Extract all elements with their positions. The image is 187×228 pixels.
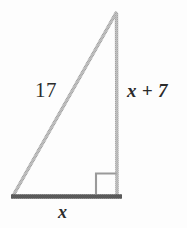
triangle-vertical-leg-core	[117, 13, 118, 196]
hypotenuse-length-label: 17	[35, 80, 57, 101]
vertical-leg-length-label: x + 7	[127, 81, 168, 100]
base-length-label: x	[58, 203, 67, 221]
right-angle-marker	[96, 174, 117, 195]
geometry-figure: 17 x + 7 x	[0, 0, 187, 228]
triangle-hypotenuse-core	[14, 13, 117, 195]
right-triangle-drawing	[0, 0, 187, 228]
